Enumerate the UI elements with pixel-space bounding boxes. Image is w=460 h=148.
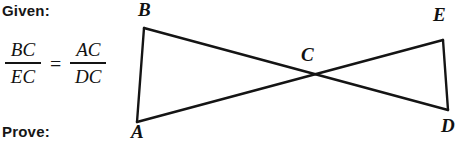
segment-ab (137, 28, 144, 122)
vertex-label-b: B (138, 0, 151, 21)
vertex-label-c: C (301, 44, 314, 66)
vertex-label-d: D (441, 115, 455, 137)
diagram-canvas (0, 0, 460, 148)
vertex-label-a: A (131, 121, 144, 143)
segment-bd (144, 28, 448, 110)
vertex-label-e: E (433, 4, 446, 26)
geometry-problem-figure: Given: BC EC = AC DC Prove: B A E D C (0, 0, 460, 148)
segment-ae (137, 40, 443, 122)
segment-ed (443, 40, 448, 110)
bowtie-diagram: B A E D C (0, 0, 460, 148)
